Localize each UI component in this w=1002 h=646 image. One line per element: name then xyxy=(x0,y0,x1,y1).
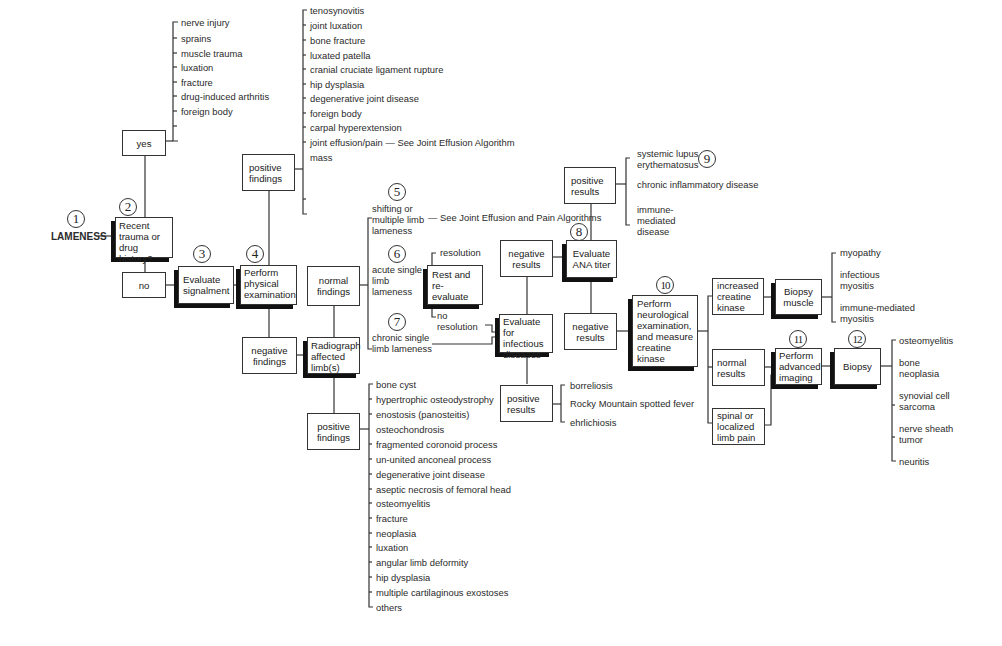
step-9-marker: 9 xyxy=(698,150,716,168)
radiograph-limbs-box: Radiograph affected limb(s) xyxy=(307,337,360,374)
shifting-lameness-reference: — See Joint Effusion and Pain Algorithms xyxy=(428,212,601,223)
physical-finding-item: carpal hyperextension xyxy=(310,122,402,133)
positive-results-infectious-box: positive results xyxy=(500,385,553,422)
radiograph-finding-item: enostosis (panosteitis) xyxy=(376,409,469,420)
increased-creatine-kinase-box: increased creatine kinase xyxy=(712,278,764,315)
radiograph-finding-item: hypertrophic osteodystrophy xyxy=(376,394,494,405)
radiograph-finding-item: hip dysplasia xyxy=(376,572,430,583)
radiograph-finding-item: fracture xyxy=(376,513,408,524)
step-5-marker: 5 xyxy=(388,183,406,201)
infectious-disease-item: ehrlichiosis xyxy=(570,417,616,428)
perform-advanced-imaging-box: Perform advanced imaging xyxy=(775,348,822,385)
perform-neuro-exam-box: Perform neurological examination, and me… xyxy=(632,295,698,367)
no-resolution-label: no resolution xyxy=(437,310,483,332)
biopsy-result-item: osteomyelitis xyxy=(899,335,953,346)
recent-trauma-box: Recent trauma or drug history? xyxy=(115,217,173,258)
radiograph-finding-item: bone cyst xyxy=(376,379,416,390)
yes-box: yes xyxy=(122,130,166,156)
biopsy-muscle-box: Biopsy muscle xyxy=(775,279,822,315)
biopsy-result-item: synovial cell sarcoma xyxy=(899,390,951,412)
physical-finding-item: luxated patella xyxy=(310,50,370,61)
step-1-marker: 1 xyxy=(67,210,85,228)
chronic-lameness-label: chronic single limb lameness xyxy=(372,332,438,354)
ana-disease-item: systemic lupus erythematosus xyxy=(637,148,699,170)
physical-finding-item: hip dysplasia xyxy=(310,79,364,90)
radiograph-finding-item: osteomyelitis xyxy=(376,498,430,509)
step-10-marker: 10 xyxy=(656,276,674,294)
trauma-cause-item: foreign body xyxy=(181,106,233,117)
rest-reevaluate-box: Rest and re-evaluate xyxy=(427,265,483,305)
step-2-marker: 2 xyxy=(119,198,137,216)
biopsy-box: Biopsy xyxy=(834,348,881,385)
step-4-marker: 4 xyxy=(246,245,264,263)
step-12-marker: 12 xyxy=(848,330,866,348)
trauma-cause-item: luxation xyxy=(181,62,213,73)
ana-disease-item: immune-mediated disease xyxy=(637,204,687,237)
normal-results-box: normal results xyxy=(712,349,765,386)
ana-disease-item: chronic inflammatory disease xyxy=(637,179,758,190)
muscle-disease-item: immune-mediated myositis xyxy=(840,302,936,324)
physical-finding-item: joint luxation xyxy=(310,20,362,31)
negative-results-ana-box: negative results xyxy=(564,313,617,350)
infectious-disease-item: borreliosis xyxy=(570,380,613,391)
physical-finding-item: foreign body xyxy=(310,108,362,119)
radiograph-finding-item: osteochondrosis xyxy=(376,424,444,435)
lameness-title: LAMENESS xyxy=(51,231,107,242)
positive-findings-bottom-box: positive findings xyxy=(307,413,360,450)
radiograph-finding-item: fragmented coronoid process xyxy=(376,439,497,450)
radiograph-finding-item: degenerative joint disease xyxy=(376,469,485,480)
evaluate-infectious-box: Evaluate for infectious diseases xyxy=(499,314,553,353)
physical-finding-item: bone fracture xyxy=(310,35,365,46)
lameness-flowchart: LAMENESS 1 2 3 4 5 6 7 8 9 10 11 12 yes … xyxy=(0,0,1002,646)
biopsy-result-item: bone neoplasia xyxy=(899,357,951,379)
negative-findings-box: negative findings xyxy=(242,337,297,374)
biopsy-result-item: neuritis xyxy=(899,456,929,467)
trauma-cause-item: fracture xyxy=(181,77,213,88)
step-6-marker: 6 xyxy=(388,245,406,263)
resolution-label: resolution xyxy=(440,247,481,258)
step-3-marker: 3 xyxy=(193,245,211,263)
radiograph-finding-item: un-united anconeal process xyxy=(376,454,491,465)
radiograph-finding-item: neoplasia xyxy=(376,528,416,539)
step-7-marker: 7 xyxy=(388,313,406,331)
biopsy-result-item: nerve sheath tumor xyxy=(899,423,955,445)
positive-results-ana-box: positive results xyxy=(564,167,616,204)
positive-findings-top-box: positive findings xyxy=(242,154,295,191)
step-11-marker: 11 xyxy=(789,330,807,348)
physical-finding-item: cranial cruciate ligament rupture xyxy=(310,64,443,75)
muscle-disease-item: myopathy xyxy=(840,247,881,258)
evaluate-ana-titer-box: Evaluate ANA titer xyxy=(566,240,617,278)
radiograph-finding-item: multiple cartilaginous exostoses xyxy=(376,587,508,598)
trauma-cause-item: nerve injury xyxy=(181,17,229,28)
infectious-disease-item: Rocky Mountain spotted fever xyxy=(570,398,694,409)
muscle-disease-item: infectious myositis xyxy=(840,269,892,291)
physical-finding-item: degenerative joint disease xyxy=(310,93,419,104)
trauma-cause-item: muscle trauma xyxy=(181,48,242,59)
radiograph-finding-item: angular limb deformity xyxy=(376,557,468,568)
acute-lameness-label: acute single limb lameness xyxy=(372,264,424,297)
radiograph-finding-item: others xyxy=(376,602,402,613)
radiograph-finding-item: aseptic necrosis of femoral head xyxy=(376,484,511,495)
trauma-cause-item: drug-induced arthritis xyxy=(181,91,269,102)
trauma-cause-item: sprains xyxy=(181,33,211,44)
radiograph-finding-item: luxation xyxy=(376,542,408,553)
negative-results-infectious-box: negative results xyxy=(500,240,553,277)
spinal-limb-pain-box: spinal or localized limb pain xyxy=(712,408,765,445)
step-8-marker: 8 xyxy=(570,223,588,241)
physical-finding-item: joint effusion/pain — See Joint Effusion… xyxy=(310,137,514,148)
physical-finding-item: tenosynovitis xyxy=(310,5,364,16)
normal-findings-box: normal findings xyxy=(307,266,360,306)
no-box: no xyxy=(122,272,166,298)
physical-finding-item: mass xyxy=(310,152,332,163)
evaluate-signalment-box: Evaluate signalment xyxy=(178,266,234,304)
perform-physical-exam-box: Perform physical examination xyxy=(240,265,297,305)
